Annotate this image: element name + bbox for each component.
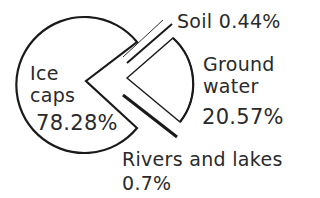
- label-ice-caps-value: 78.28%: [36, 112, 118, 134]
- ice-caps-label-line1: Ice: [30, 62, 75, 84]
- label-ground-water-value: 20.57%: [202, 106, 284, 128]
- ground-water-label-line2: water: [203, 75, 275, 97]
- slice-rivers-lakes: [123, 95, 177, 137]
- label-rivers-lakes-value: 0.7%: [122, 172, 171, 194]
- label-ground-water: Ground water: [203, 53, 275, 97]
- slice-ground-water-arc: [173, 38, 193, 122]
- ground-water-label-line1: Ground: [203, 53, 275, 75]
- label-soil: Soil 0.44%: [177, 10, 281, 32]
- label-rivers-lakes: Rivers and lakes: [122, 148, 283, 170]
- label-ice-caps: Ice caps: [30, 62, 75, 106]
- ice-caps-label-line2: caps: [30, 84, 75, 106]
